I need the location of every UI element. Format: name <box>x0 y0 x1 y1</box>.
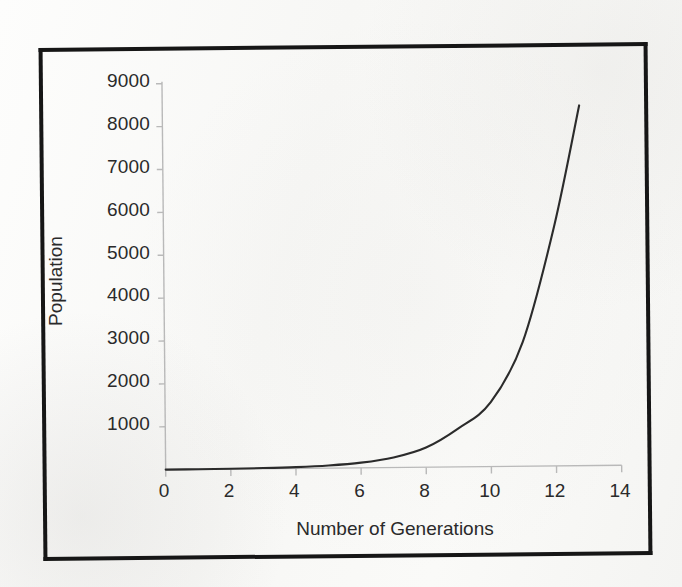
x-axis-tick-label: 4 <box>274 480 314 502</box>
y-axis-tick-label: 6000 <box>78 199 150 221</box>
y-axis-tick-label: 8000 <box>78 113 150 135</box>
y-axis-tick-label: 7000 <box>78 156 150 178</box>
x-axis-title: Number of Generations <box>180 518 610 540</box>
y-axis-title: Population <box>45 201 67 361</box>
x-axis-tick-label: 8 <box>405 480 445 502</box>
y-axis-tick-label: 2000 <box>78 370 150 392</box>
y-axis-tick-label: 5000 <box>78 242 150 264</box>
x-axis-tick-label: 14 <box>600 480 640 502</box>
y-axis-tick-label: 4000 <box>78 284 150 306</box>
y-axis-tick-label: 9000 <box>78 70 150 92</box>
x-axis-tick-label: 0 <box>144 480 184 502</box>
x-axis-tick-label: 10 <box>470 480 510 502</box>
x-axis-tick-label: 2 <box>209 480 249 502</box>
y-axis-tick-label: 3000 <box>78 327 150 349</box>
x-axis-tick-label: 6 <box>339 480 379 502</box>
chart-plot: 1000200030004000500060007000800090000246… <box>0 0 682 587</box>
x-axis-tick-label: 12 <box>535 480 575 502</box>
y-axis-tick-label: 1000 <box>78 413 150 435</box>
